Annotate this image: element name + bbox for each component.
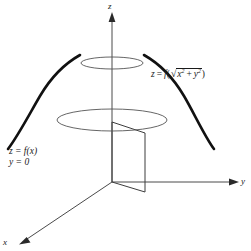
y-axis-label: y bbox=[241, 176, 245, 187]
generating-curve-annotation: z = f(x) y = 0 bbox=[9, 146, 37, 168]
figure-canvas bbox=[0, 0, 251, 251]
surface-of-revolution-figure: z y x z = f(x) y = 0 z=f(√x2+y2) bbox=[0, 0, 251, 251]
axes-group bbox=[19, 12, 239, 245]
surface-equation-lhs: z bbox=[151, 69, 155, 79]
generating-curve-equation: z = f(x) bbox=[9, 146, 37, 157]
x-axis-label: x bbox=[3, 237, 7, 248]
x-axis-line bbox=[27, 182, 112, 239]
surface-equation-equals: = bbox=[157, 69, 162, 79]
square-root-icon: √x2+y2 bbox=[170, 68, 202, 80]
y-axis-arrowhead bbox=[229, 179, 239, 186]
radicand-plus: + bbox=[186, 69, 191, 79]
z-axis-label: z bbox=[108, 1, 112, 12]
generating-curve-left bbox=[8, 55, 80, 149]
generating-curve-plane: y = 0 bbox=[9, 157, 37, 168]
radicand-y-exponent: 2 bbox=[198, 68, 201, 74]
radicand: x2+y2 bbox=[176, 68, 202, 80]
radicand-x-exponent: 2 bbox=[181, 68, 184, 74]
surface-equation-close-paren: ) bbox=[202, 69, 205, 79]
z-axis-arrowhead bbox=[109, 12, 116, 22]
surface-equation-annotation: z=f(√x2+y2) bbox=[151, 68, 205, 80]
